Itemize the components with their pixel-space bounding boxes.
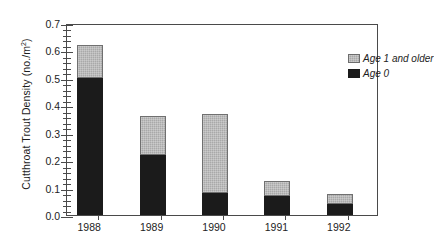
y-tick-minor <box>63 58 71 59</box>
y-tick-minor <box>63 113 71 114</box>
y-tick-minor <box>63 179 71 180</box>
y-tick-major <box>61 107 73 108</box>
y-tick-minor <box>63 157 71 158</box>
x-tick-label-1992: 1992 <box>309 221 369 233</box>
y-tick-minor <box>63 102 71 103</box>
y-tick-major <box>61 162 73 163</box>
y-tick-label: 0.5 <box>28 73 60 85</box>
bar-segment-age0-1989 <box>140 155 166 215</box>
y-tick-label: 0.0 <box>28 210 60 222</box>
y-tick-minor <box>63 85 71 86</box>
bar-segment-age1-and-older-1992 <box>327 194 353 204</box>
y-tick-minor <box>63 91 71 92</box>
x-axis-tick-labels: 19881989199019911992 <box>66 221 378 243</box>
bar-stack-1990 <box>202 114 228 215</box>
bar-segment-age0-1990 <box>202 193 228 215</box>
legend-item-age1-and-older: Age 1 and older <box>348 51 434 65</box>
legend-swatch-age1-and-older <box>348 54 360 63</box>
y-tick-minor <box>63 96 71 97</box>
bar-segment-age1-and-older-1988 <box>77 45 103 78</box>
y-tick-minor <box>63 36 71 37</box>
y-tick-minor <box>63 118 71 119</box>
bar-segment-age1-and-older-1990 <box>202 114 228 194</box>
bar-segment-age1-and-older-1991 <box>264 181 290 196</box>
legend-label-age1-and-older: Age 1 and older <box>363 53 434 64</box>
x-tick-label-1989: 1989 <box>122 221 182 233</box>
bar-segment-age0-1992 <box>327 204 353 215</box>
y-tick-label: 0.2 <box>28 155 60 167</box>
chart-legend: Age 1 and older Age 0 <box>348 51 434 81</box>
bar-segment-age0-1988 <box>77 78 103 215</box>
y-tick-label: 0.4 <box>28 100 60 112</box>
plot-area: Age 1 and older Age 0 <box>66 24 378 216</box>
bar-stack-1989 <box>140 116 166 215</box>
y-tick-minor <box>63 124 71 125</box>
bar-stack-1988 <box>77 45 103 215</box>
y-tick-label: 0.1 <box>28 183 60 195</box>
legend-swatch-age0 <box>348 69 360 78</box>
y-tick-minor <box>63 30 71 31</box>
y-tick-major <box>61 135 73 136</box>
y-tick-minor <box>63 140 71 141</box>
y-tick-minor <box>63 212 71 213</box>
y-tick-minor <box>63 69 71 70</box>
y-tick-minor <box>63 63 71 64</box>
bar-segment-age0-1991 <box>264 196 290 215</box>
y-axis-tick-labels: 0.00.10.20.30.40.50.60.7 <box>0 0 66 250</box>
legend-item-age0: Age 0 <box>348 66 434 80</box>
y-tick-major <box>61 190 73 191</box>
x-tick-label-1990: 1990 <box>184 221 244 233</box>
x-tick-label-1988: 1988 <box>59 221 119 233</box>
bar-stack-1991 <box>264 181 290 215</box>
y-tick-label: 0.7 <box>28 18 60 30</box>
y-tick-minor <box>63 195 71 196</box>
legend-label-age0: Age 0 <box>363 68 389 79</box>
y-tick-minor <box>63 201 71 202</box>
y-tick-minor <box>63 41 71 42</box>
y-tick-minor <box>63 168 71 169</box>
y-tick-major <box>61 80 73 81</box>
y-tick-minor <box>63 129 71 130</box>
y-tick-major <box>61 25 73 26</box>
y-tick-major <box>61 217 73 218</box>
bar-segment-age1-and-older-1989 <box>140 116 166 154</box>
y-tick-minor <box>63 151 71 152</box>
bar-stack-1992 <box>327 194 353 215</box>
y-tick-minor <box>63 74 71 75</box>
y-tick-major <box>61 52 73 53</box>
y-tick-minor <box>63 47 71 48</box>
y-tick-label: 0.3 <box>28 128 60 140</box>
y-tick-minor <box>63 206 71 207</box>
x-tick-label-1991: 1991 <box>246 221 306 233</box>
y-tick-minor <box>63 173 71 174</box>
y-tick-minor <box>63 184 71 185</box>
y-tick-minor <box>63 146 71 147</box>
y-tick-label: 0.6 <box>28 45 60 57</box>
